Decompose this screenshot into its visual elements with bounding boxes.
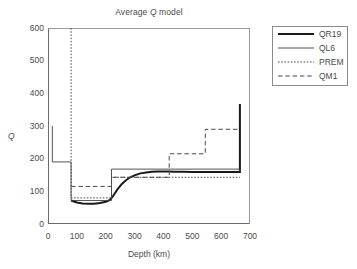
chart-title: Average Q model — [48, 7, 250, 17]
series-ql6 — [52, 126, 240, 200]
x-tick-label: 200 — [91, 231, 121, 241]
chart-title-pre: Average — [115, 7, 150, 17]
chart-legend: QR19QL6PREMQM1 — [272, 26, 348, 86]
x-tick-label: 300 — [120, 231, 150, 241]
legend-label: PREM — [319, 57, 344, 67]
legend-swatch-qr19 — [277, 28, 315, 40]
x-tick-label: 700 — [235, 231, 265, 241]
x-axis-label: Depth (km) — [48, 249, 250, 259]
legend-item-qr19[interactable]: QR19 — [273, 27, 347, 41]
chart-title-post: model — [157, 7, 183, 17]
series-qm1 — [71, 129, 240, 186]
y-tick-label: 500 — [4, 56, 44, 65]
legend-swatch-ql6 — [277, 42, 315, 54]
y-tick-label: 0 — [4, 220, 44, 229]
series-qr19 — [71, 104, 240, 204]
y-axis-tick-labels: 0100200300400500600 — [0, 0, 44, 269]
legend-label: QL6 — [319, 43, 335, 53]
y-tick-label: 600 — [4, 24, 44, 33]
legend-item-qm1[interactable]: QM1 — [273, 69, 347, 83]
legend-swatch-prem — [277, 56, 315, 68]
legend-swatch-qm1 — [277, 70, 315, 82]
y-tick-label: 100 — [4, 187, 44, 196]
chart-title-italic-q: Q — [150, 7, 157, 17]
y-tick-label: 400 — [4, 89, 44, 98]
legend-label: QM1 — [319, 71, 337, 81]
y-tick-label: 200 — [4, 154, 44, 163]
x-tick-label: 600 — [206, 231, 236, 241]
plot-area — [48, 28, 250, 224]
x-tick-label: 100 — [62, 231, 92, 241]
legend-item-prem[interactable]: PREM — [273, 55, 347, 69]
legend-item-ql6[interactable]: QL6 — [273, 41, 347, 55]
x-tick-label: 400 — [148, 231, 178, 241]
plot-svg — [48, 28, 250, 224]
x-tick-label: 500 — [177, 231, 207, 241]
x-tick-label: 0 — [33, 231, 63, 241]
legend-label: QR19 — [319, 29, 341, 39]
chart-figure: Average Q model Q Depth (km) 01002003004… — [0, 0, 357, 269]
y-tick-label: 300 — [4, 122, 44, 131]
